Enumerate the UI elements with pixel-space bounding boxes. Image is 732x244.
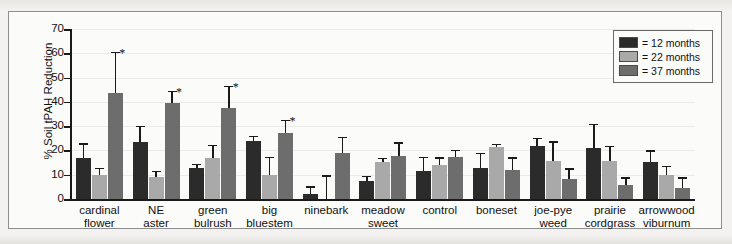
- bar: [448, 157, 463, 199]
- error-bar-cap: [621, 177, 630, 178]
- error-bar-cap: [419, 157, 428, 158]
- error-bar: [115, 52, 116, 93]
- y-tick-mark: [64, 53, 71, 55]
- bar: [262, 175, 277, 199]
- bar-group: [468, 29, 525, 199]
- error-bar: [609, 146, 610, 161]
- legend-label: = 22 months: [642, 51, 700, 63]
- error-bar: [480, 153, 481, 168]
- error-bar: [666, 166, 667, 176]
- x-axis-label: arrowwoodviburnum: [626, 204, 707, 230]
- bar: [189, 168, 204, 199]
- bar: [618, 185, 633, 199]
- error-bar-cap: [533, 138, 542, 139]
- bar: [108, 93, 123, 199]
- bar-group: *: [241, 29, 298, 199]
- error-bar-cap: [136, 126, 145, 127]
- error-bar-cap: [192, 164, 201, 165]
- bar: [489, 147, 504, 199]
- error-bar-cap: [589, 124, 598, 125]
- error-bar: [139, 126, 140, 142]
- error-bar: [552, 141, 553, 161]
- y-tick-mark: [64, 102, 71, 104]
- bar: [562, 179, 577, 199]
- scan-edge-bottom: [0, 234, 732, 244]
- error-bar: [228, 86, 229, 109]
- error-bar: [593, 124, 594, 148]
- figure-page: % Soil tPAH Reduction 706050403020100 **…: [0, 0, 732, 244]
- bar: [221, 108, 236, 199]
- bar: [586, 148, 601, 199]
- legend-swatch: [619, 37, 638, 48]
- error-bar-cap: [646, 150, 655, 151]
- legend-swatch: [619, 51, 638, 62]
- plot-area: ****: [71, 29, 695, 199]
- y-tick-mark: [64, 150, 71, 152]
- significance-asterisk: *: [176, 88, 182, 96]
- bar: [278, 133, 293, 199]
- bar: [530, 146, 545, 199]
- y-tick-mark: [64, 78, 71, 80]
- legend: = 12 months= 22 months= 37 months: [613, 30, 713, 83]
- y-axis-ticks: 706050403020100: [27, 12, 64, 230]
- error-bar: [512, 157, 513, 169]
- error-bar: [269, 157, 270, 175]
- error-bar-cap: [249, 136, 258, 137]
- error-bar: [342, 137, 343, 153]
- bar-group: *: [184, 29, 241, 199]
- error-bar-cap: [338, 137, 347, 138]
- error-bar: [398, 142, 399, 156]
- bar: [92, 175, 107, 199]
- significance-asterisk: *: [119, 49, 125, 57]
- legend-label: = 37 months: [642, 65, 700, 77]
- legend-item: = 37 months: [619, 64, 707, 77]
- error-bar: [285, 120, 286, 133]
- bar: [505, 170, 520, 199]
- bar-group: [355, 29, 412, 199]
- error-bar: [83, 143, 84, 158]
- error-bar-cap: [95, 168, 104, 169]
- error-bar-cap: [605, 146, 614, 147]
- error-bar-cap: [79, 143, 88, 144]
- x-axis-line: [70, 199, 695, 201]
- bar: [359, 181, 374, 199]
- error-bar-cap: [678, 177, 687, 178]
- figure-frame: % Soil tPAH Reduction 706050403020100 **…: [8, 11, 722, 229]
- y-tick-label: 60: [34, 47, 64, 58]
- significance-asterisk: *: [290, 117, 296, 125]
- error-bar-cap: [265, 157, 274, 158]
- bar: [149, 177, 164, 199]
- bar: [391, 156, 406, 199]
- bar-group: [298, 29, 355, 199]
- error-bar: [568, 168, 569, 179]
- x-axis-label-line: bluestem: [229, 217, 310, 230]
- legend-item: = 22 months: [619, 50, 707, 63]
- x-axis-label-line: sweet: [343, 217, 424, 230]
- y-tick-label: 50: [34, 72, 64, 83]
- bar: [246, 141, 261, 199]
- error-bar-cap: [662, 166, 671, 167]
- error-bar-cap: [508, 157, 517, 158]
- error-bar-cap: [378, 158, 387, 159]
- x-axis-label-line: viburnum: [626, 217, 707, 230]
- error-bar: [326, 175, 327, 199]
- error-bar: [423, 157, 424, 171]
- error-bar-cap: [152, 171, 161, 172]
- error-bar: [650, 150, 651, 162]
- error-bar-cap: [451, 150, 460, 151]
- error-bar-cap: [306, 186, 315, 187]
- bar: [675, 188, 690, 199]
- y-tick-mark: [64, 199, 71, 201]
- y-tick-label: 0: [34, 193, 64, 204]
- bar: [133, 142, 148, 199]
- y-tick-mark: [64, 175, 71, 177]
- bar: [416, 171, 431, 199]
- significance-asterisk: *: [233, 83, 239, 91]
- bar: [205, 158, 220, 199]
- error-bar-cap: [492, 144, 501, 145]
- error-bar-cap: [208, 145, 217, 146]
- y-tick-label: 70: [34, 23, 64, 34]
- bar-group: [411, 29, 468, 199]
- y-tick-label: 40: [34, 96, 64, 107]
- bar: [165, 103, 180, 199]
